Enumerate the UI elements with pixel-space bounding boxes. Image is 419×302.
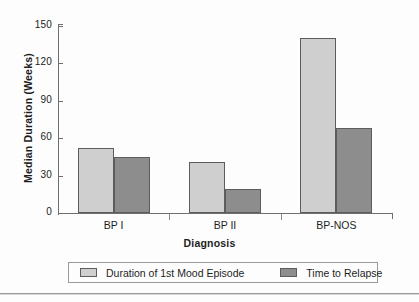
- legend-label-series-1: Time to Relapse: [306, 267, 382, 279]
- bar-bp-i-series-1: [114, 157, 150, 213]
- bar-group: [281, 26, 392, 213]
- legend-entry-time-to-relapse: Time to Relapse: [280, 267, 382, 279]
- legend-label-series-0: Duration of 1st Mood Episode: [106, 267, 244, 279]
- bar-group: [58, 26, 169, 213]
- legend-entry-duration-of-1st-mood-episode: Duration of 1st Mood Episode: [80, 267, 244, 279]
- x-axis-category-label: BP I: [58, 219, 169, 231]
- x-axis-category-label: BP II: [169, 219, 280, 231]
- x-axis-title: Diagnosis: [0, 237, 419, 249]
- bar-group: [169, 26, 280, 213]
- legend-swatch-icon-series-0: [80, 268, 97, 277]
- legend-swatch-icon-series-1: [280, 268, 297, 277]
- y-axis-tick: [58, 213, 63, 214]
- x-axis-category-label: BP-NOS: [281, 219, 392, 231]
- chart-legend: Duration of 1st Mood Episode Time to Rel…: [68, 262, 378, 283]
- bar-bp-ii-series-1: [225, 189, 261, 213]
- y-axis-title: Median Duration (Weeks): [22, 38, 34, 198]
- plot-area: [58, 26, 392, 213]
- bar-bp-i-series-0: [78, 148, 114, 213]
- x-axis-line: [58, 213, 393, 214]
- bar-bp-ii-series-0: [189, 162, 225, 213]
- page-divider-rule-shadow: [0, 294, 419, 295]
- x-axis-end-cap: [392, 213, 393, 219]
- bar-bp-nos-series-0: [300, 38, 336, 213]
- y-axis-tick-label: 0: [0, 206, 52, 217]
- bar-chart-figure: 0306090120150 BP IBP IIBP-NOS Diagnosis …: [0, 0, 419, 302]
- bar-bp-nos-series-1: [336, 128, 372, 213]
- y-axis-tick-label: 150: [0, 19, 52, 30]
- y-axis-top-cap: [58, 24, 63, 25]
